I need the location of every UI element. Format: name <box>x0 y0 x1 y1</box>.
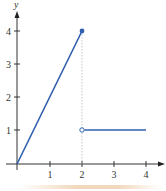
x-tick-label: 2 <box>80 169 85 180</box>
filled-endpoint-dot-icon <box>80 29 85 34</box>
y-tick-label: 4 <box>6 26 11 37</box>
y-tick-label: 1 <box>6 125 11 136</box>
x-axis-arrow-icon <box>158 162 165 167</box>
bottom-decorative-strip <box>20 185 160 189</box>
y-ticks: 4 3 2 1 <box>6 26 20 136</box>
x-tick-label: 1 <box>48 169 53 180</box>
x-tick-label: 3 <box>112 169 117 180</box>
piecewise-function-chart: y 4 3 2 1 1 2 3 4 <box>0 0 166 191</box>
open-endpoint-circle-icon <box>80 128 84 132</box>
y-axis-label: y <box>13 0 19 10</box>
y-tick-label: 2 <box>6 92 11 103</box>
series-segment-1 <box>17 31 82 164</box>
y-tick-label: 3 <box>6 59 11 70</box>
x-tick-label: 4 <box>144 169 149 180</box>
y-axis-arrow-icon <box>15 11 20 18</box>
